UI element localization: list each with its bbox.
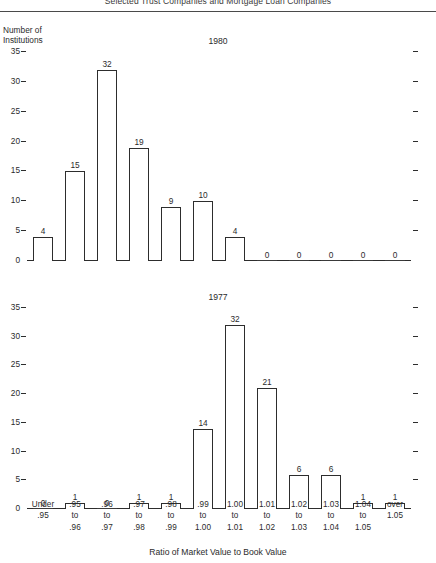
y-tick-mark-right xyxy=(413,364,418,365)
x-tick-label: .97to.98 xyxy=(123,499,155,533)
x-tick-label: .98to.99 xyxy=(155,499,187,533)
y-tick-label: 10 xyxy=(2,446,20,456)
bar-series-1977: 010111432216611 xyxy=(27,302,411,509)
bar-value-label: 32 xyxy=(230,314,239,324)
bar-group: 6 xyxy=(315,302,347,509)
bar xyxy=(193,429,213,510)
panel-year-label-1980: 1980 xyxy=(0,36,436,46)
y-tick-mark-left xyxy=(21,393,26,394)
x-tick-label: .96to.97 xyxy=(91,499,123,533)
bar-group: 1 xyxy=(379,302,411,509)
x-tick-label-line: to xyxy=(347,510,379,521)
y-tick-mark-left xyxy=(21,170,26,171)
x-tick-label: over1.05 xyxy=(379,499,411,522)
bar-group: 0 xyxy=(91,302,123,509)
y-tick-mark-right xyxy=(413,451,418,452)
plot-area-1977: 05101520253035 010111432216611 xyxy=(27,302,411,509)
y-tick-mark-left xyxy=(21,451,26,452)
y-tick-mark-left xyxy=(21,336,26,337)
y-tick-label: 10 xyxy=(2,195,20,205)
y-tick-mark-left xyxy=(21,479,26,480)
bar xyxy=(161,207,181,261)
x-tick-label-line: 1.05 xyxy=(347,522,379,533)
bar-group: 6 xyxy=(283,302,315,509)
x-tick-label: .95to.96 xyxy=(59,499,91,533)
y-tick-label: 5 xyxy=(2,225,20,235)
bar-group: 1 xyxy=(155,302,187,509)
x-tick-label-line: .97 xyxy=(91,522,123,533)
x-tick-label-line: .98 xyxy=(123,522,155,533)
x-tick-label-line: 1.01 xyxy=(251,499,283,510)
bar xyxy=(193,201,213,261)
y-tick-mark-left xyxy=(21,141,26,142)
bar-group: 19 xyxy=(123,46,155,261)
x-tick-label-line: .96 xyxy=(91,499,123,510)
figure-root: Selected Trust Companies and Mortgage Lo… xyxy=(0,0,436,563)
x-tick-label-line: to xyxy=(283,510,315,521)
x-tick-label: 1.01to1.02 xyxy=(251,499,283,533)
bar-group: 0 xyxy=(315,46,347,261)
bar-value-label: 19 xyxy=(134,137,143,147)
bar-group: 0 xyxy=(283,46,315,261)
y-axis-title-line1: Number of xyxy=(3,25,43,35)
y-tick-mark-right xyxy=(413,393,418,394)
x-tick-label-line: 1.02 xyxy=(283,499,315,510)
y-tick-label: 35 xyxy=(2,302,20,312)
x-tick-label: Under.95 xyxy=(27,499,59,522)
bar-value-label: 4 xyxy=(41,226,46,236)
figure-title: Selected Trust Companies and Mortgage Lo… xyxy=(0,0,436,6)
y-tick-mark-right xyxy=(413,51,418,52)
x-tick-label-line: 1.03 xyxy=(283,522,315,533)
bar-value-label: 0 xyxy=(393,250,398,260)
bar-group: 1 xyxy=(59,302,91,509)
x-tick-label-line: to xyxy=(219,510,251,521)
y-tick-label: 25 xyxy=(2,359,20,369)
x-tick-label-line: to xyxy=(123,510,155,521)
bar-series-1980: 4153219910400000 xyxy=(27,46,411,261)
y-tick-mark-left xyxy=(21,307,26,308)
y-tick-mark-right xyxy=(413,141,418,142)
x-tick-label-line: .99 xyxy=(155,522,187,533)
x-tick-label-line: to xyxy=(91,510,123,521)
bar xyxy=(129,148,149,261)
y-tick-mark-right xyxy=(413,479,418,480)
y-tick-mark-left xyxy=(21,51,26,52)
bar-value-label: 0 xyxy=(361,250,366,260)
x-tick-label: 1.03to1.04 xyxy=(315,499,347,533)
x-tick-label-line: .98 xyxy=(155,499,187,510)
bar xyxy=(225,237,245,261)
bar-value-label: 32 xyxy=(102,59,111,69)
bar xyxy=(97,70,117,261)
x-tick-label-line: .95 xyxy=(59,499,91,510)
x-tick-label-line: 1.04 xyxy=(315,522,347,533)
x-axis-title: Ratio of Market Value to Book Value xyxy=(0,547,436,557)
bar-group: 0 xyxy=(379,46,411,261)
x-tick-label-line: 1.01 xyxy=(219,522,251,533)
y-tick-mark-left xyxy=(21,422,26,423)
chart-panel-1977: 1977 05101520253035 010111432216611 xyxy=(0,292,436,516)
x-tick-label: 1.00to1.01 xyxy=(219,499,251,533)
bar xyxy=(257,388,277,509)
y-tick-label: 15 xyxy=(2,165,20,175)
y-tick-label: 25 xyxy=(2,106,20,116)
bar-value-label: 0 xyxy=(297,250,302,260)
bar-group: 10 xyxy=(187,46,219,261)
x-tick-label-line: 1.00 xyxy=(187,522,219,533)
y-tick-mark-left xyxy=(21,81,26,82)
bar-value-label: 15 xyxy=(70,160,79,170)
x-tick-label-line: 1.00 xyxy=(219,499,251,510)
bar-group: 32 xyxy=(219,302,251,509)
y-tick-label: 20 xyxy=(2,388,20,398)
y-tick-label: 20 xyxy=(2,136,20,146)
y-tick-mark-right xyxy=(413,307,418,308)
y-tick-mark-right xyxy=(413,111,418,112)
y-tick-mark-left xyxy=(21,364,26,365)
x-tick-label-line: 1.04 xyxy=(347,499,379,510)
y-tick-mark-right xyxy=(413,200,418,201)
y-tick-mark-right xyxy=(413,81,418,82)
bar-group: 21 xyxy=(251,302,283,509)
x-tick-label-line: 1.03 xyxy=(315,499,347,510)
bar xyxy=(65,171,85,261)
x-tick-label-line: .99 xyxy=(187,499,219,510)
bar-group: 9 xyxy=(155,46,187,261)
